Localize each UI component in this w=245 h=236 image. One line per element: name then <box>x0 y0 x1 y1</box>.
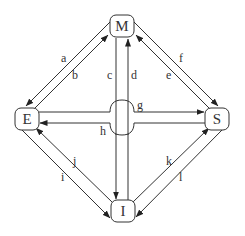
node-s-label: S <box>213 111 221 127</box>
edge-label-e: e <box>166 68 171 82</box>
edge-i <box>22 130 110 218</box>
edge-label-d: d <box>131 68 137 82</box>
node-s[interactable]: S <box>205 108 229 130</box>
node-i[interactable]: I <box>111 200 135 222</box>
edge-label-g: g <box>137 98 143 112</box>
edge-a <box>26 22 110 106</box>
edge-label-l: l <box>179 170 183 184</box>
node-e[interactable]: E <box>15 108 39 130</box>
edge-label-j: j <box>72 154 76 168</box>
edge-f <box>134 22 218 106</box>
edge-label-a: a <box>61 51 67 65</box>
edge-e <box>136 35 210 109</box>
node-i-label: I <box>121 203 126 219</box>
edge-b <box>34 35 108 109</box>
edge-label-h: h <box>100 124 106 138</box>
node-e-label: E <box>22 111 31 127</box>
edge-label-b: b <box>72 68 78 82</box>
state-diagram: M E S I a b c d e f g h i j k l <box>0 0 245 236</box>
edge-label-c: c <box>107 68 112 82</box>
edge-label-f: f <box>179 51 183 65</box>
edge-label-k: k <box>166 154 172 168</box>
junction-oval <box>110 100 134 135</box>
node-m[interactable]: M <box>110 15 134 37</box>
node-m-label: M <box>115 18 128 34</box>
